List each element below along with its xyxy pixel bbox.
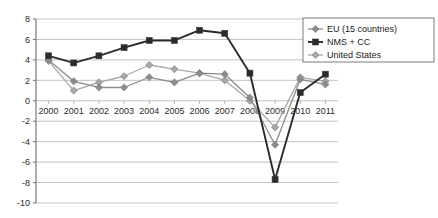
series-line [49, 61, 326, 127]
legend: EU (15 countries)NMS + CCUnited States [303, 18, 434, 62]
data-point [197, 27, 203, 33]
series-united-states [45, 57, 329, 131]
x-tick-label: 2006 [190, 106, 210, 116]
x-tick-label: 2005 [164, 106, 184, 116]
x-tick-label: 2002 [89, 106, 109, 116]
y-axis: 86420-2-4-6-8-10 [17, 14, 36, 208]
data-point [121, 45, 127, 51]
data-point [146, 74, 153, 81]
y-tick-label: -8 [22, 178, 30, 188]
x-tick-label: 2004 [139, 106, 159, 116]
data-point [146, 37, 152, 43]
x-tick-label: 2011 [316, 106, 335, 116]
data-point [297, 90, 303, 96]
data-point [171, 79, 178, 86]
series-eu-15-countries [45, 56, 329, 148]
data-point [95, 84, 102, 91]
data-point [96, 53, 102, 59]
data-point [171, 37, 177, 43]
line-chart: 86420-2-4-6-8-10200020012002200320042005… [0, 0, 438, 218]
chart-canvas: 86420-2-4-6-8-10200020012002200320042005… [0, 0, 438, 218]
x-tick-label: 2000 [39, 106, 59, 116]
x-tick-label: 2001 [64, 106, 84, 116]
x-tick-label: 2003 [114, 106, 134, 116]
y-tick-label: 4 [25, 55, 30, 65]
data-point [146, 61, 153, 68]
data-point [120, 73, 127, 80]
data-point [46, 53, 52, 59]
data-point [171, 65, 178, 72]
data-point [222, 30, 228, 36]
legend-label: NMS + CC [327, 37, 371, 47]
legend-label: United States [327, 50, 382, 60]
legend-marker [313, 39, 319, 45]
x-tick-label: 2007 [215, 106, 235, 116]
series-line [49, 60, 326, 145]
y-tick-label: 8 [25, 14, 30, 24]
data-point [322, 71, 328, 77]
data-point [71, 60, 77, 66]
y-tick-label: 2 [25, 76, 30, 86]
y-tick-label: 6 [25, 35, 30, 45]
data-point [271, 141, 278, 148]
data-point [272, 176, 278, 182]
y-tick-label: -4 [22, 137, 30, 147]
data-point [247, 70, 253, 76]
y-tick-label: -2 [22, 116, 30, 126]
y-tick-label: -10 [17, 198, 30, 208]
legend-label: EU (15 countries) [327, 24, 397, 34]
data-point [120, 84, 127, 91]
data-point [196, 70, 203, 77]
y-tick-label: 0 [25, 96, 30, 106]
y-tick-label: -6 [22, 157, 30, 167]
